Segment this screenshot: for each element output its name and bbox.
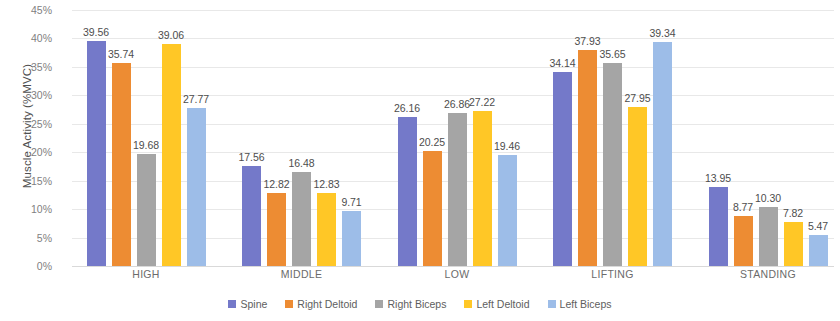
legend-item[interactable]: Left Deltoid [464, 298, 529, 310]
bar-slot: 17.56 [242, 10, 261, 266]
bar[interactable] [137, 154, 156, 266]
bar-group-bars: 39.5635.7419.6839.0627.77 [80, 10, 212, 266]
bar-value-label: 13.95 [705, 172, 731, 184]
bar[interactable] [784, 222, 803, 266]
bar-value-label: 27.95 [625, 92, 651, 104]
bar-slot: 10.30 [759, 10, 778, 266]
bar-slot: 13.95 [709, 10, 728, 266]
legend-swatch-icon [375, 300, 383, 308]
bar-value-label: 16.48 [289, 157, 315, 169]
bar[interactable] [292, 172, 311, 266]
bar-value-label: 34.14 [550, 57, 576, 69]
legend-item[interactable]: Spine [228, 298, 267, 310]
bar-slot: 39.56 [87, 10, 106, 266]
x-axis-category-label: STANDING [702, 268, 834, 280]
bar[interactable] [628, 107, 647, 266]
bar[interactable] [342, 211, 361, 266]
bar-slot: 35.74 [112, 10, 131, 266]
bar-value-label: 27.77 [183, 93, 209, 105]
bar-slot: 39.34 [653, 10, 672, 266]
x-axis-category-label: LIFTING [547, 268, 679, 280]
bar[interactable] [317, 193, 336, 266]
legend-swatch-icon [464, 300, 472, 308]
bar-chart: Muscle Activity (%MVC) 45%40%35%30%25%20… [0, 0, 840, 321]
bar-value-label: 19.68 [133, 139, 159, 151]
bar-value-label: 26.16 [394, 102, 420, 114]
bar-value-label: 39.06 [158, 29, 184, 41]
bar-value-label: 12.83 [314, 178, 340, 190]
legend-item[interactable]: Right Deltoid [285, 298, 357, 310]
bar-value-label: 5.47 [808, 220, 828, 232]
bar-slot: 12.82 [267, 10, 286, 266]
bar-value-label: 10.30 [755, 192, 781, 204]
legend-label: Right Deltoid [297, 298, 357, 310]
legend-item[interactable]: Right Biceps [375, 298, 446, 310]
bar-slot: 39.06 [162, 10, 181, 266]
bar-slot: 5.47 [809, 10, 828, 266]
bar-group-bars: 17.5612.8216.4812.839.71 [236, 10, 368, 266]
bar-group-bars: 13.958.7710.307.825.47 [702, 10, 834, 266]
bar[interactable] [267, 193, 286, 266]
bar[interactable] [448, 113, 467, 266]
bar-slot: 27.77 [187, 10, 206, 266]
bar-value-label: 35.65 [600, 48, 626, 60]
legend-item[interactable]: Left Biceps [548, 298, 612, 310]
bar[interactable] [809, 235, 828, 266]
bar-value-label: 19.46 [494, 140, 520, 152]
bar[interactable] [759, 207, 778, 266]
bar-group: 26.1620.2526.8627.2219.46LOW [391, 10, 523, 266]
bar[interactable] [653, 42, 672, 266]
bar[interactable] [112, 63, 131, 266]
bar[interactable] [553, 72, 572, 266]
bar-slot: 9.71 [342, 10, 361, 266]
bar[interactable] [87, 41, 106, 266]
y-axis-tick-label: 5% [12, 232, 52, 244]
bar-group: 13.958.7710.307.825.47STANDING [702, 10, 834, 266]
bar[interactable] [498, 155, 517, 266]
bar-group-bars: 26.1620.2526.8627.2219.46 [391, 10, 523, 266]
legend-label: Spine [240, 298, 267, 310]
bar-value-label: 9.71 [341, 196, 361, 208]
y-axis-tick-label: 45% [12, 4, 52, 16]
y-axis-tick-label: 40% [12, 32, 52, 44]
y-axis-tick-label: 35% [12, 61, 52, 73]
bar-slot: 37.93 [578, 10, 597, 266]
bar[interactable] [187, 108, 206, 266]
bar-value-label: 39.56 [83, 26, 109, 38]
legend-label: Left Deltoid [476, 298, 529, 310]
bar-value-label: 17.56 [239, 151, 265, 163]
bar-value-label: 39.34 [650, 27, 676, 39]
y-axis-tick-label: 10% [12, 203, 52, 215]
legend-swatch-icon [285, 300, 293, 308]
plot-area: 45%40%35%30%25%20%15%10%5%0%39.5635.7419… [72, 10, 834, 266]
bar-slot: 35.65 [603, 10, 622, 266]
bar[interactable] [578, 50, 597, 266]
bar-slot: 26.86 [448, 10, 467, 266]
x-axis-category-label: LOW [391, 268, 523, 280]
y-axis-tick-label: 15% [12, 175, 52, 187]
bar-slot: 34.14 [553, 10, 572, 266]
bar[interactable] [603, 63, 622, 266]
bar-value-label: 27.22 [469, 96, 495, 108]
bar-slot: 27.95 [628, 10, 647, 266]
bar-value-label: 20.25 [419, 136, 445, 148]
bar-value-label: 8.77 [733, 201, 753, 213]
bar[interactable] [709, 187, 728, 266]
x-axis-category-label: HIGH [80, 268, 212, 280]
bar-slot: 26.16 [398, 10, 417, 266]
y-axis-tick-label: 0% [12, 260, 52, 272]
bar[interactable] [398, 117, 417, 266]
bar[interactable] [734, 216, 753, 266]
bar-value-label: 26.86 [444, 98, 470, 110]
y-axis-tick-label: 30% [12, 89, 52, 101]
bar-slot: 7.82 [784, 10, 803, 266]
y-axis-tick-label: 20% [12, 146, 52, 158]
bar[interactable] [473, 111, 492, 266]
bar[interactable] [162, 44, 181, 266]
legend-label: Left Biceps [560, 298, 612, 310]
bar-group: 17.5612.8216.4812.839.71MIDDLE [236, 10, 368, 266]
bar-group: 34.1437.9335.6527.9539.34LIFTING [547, 10, 679, 266]
bar-slot: 12.83 [317, 10, 336, 266]
bar[interactable] [423, 151, 442, 266]
bar[interactable] [242, 166, 261, 266]
